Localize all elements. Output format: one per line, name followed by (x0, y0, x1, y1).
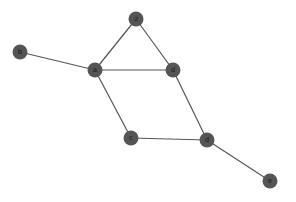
edge-layer (20, 19, 270, 181)
graph-edge (136, 19, 173, 70)
node-marker[interactable] (129, 12, 144, 27)
graph-node-d[interactable]: d (200, 133, 215, 148)
node-marker[interactable] (124, 131, 139, 146)
graph-edge (95, 19, 136, 70)
node-layer: zbadcde (13, 12, 278, 189)
graph-edge (131, 138, 207, 140)
graph-node-e[interactable]: e (263, 174, 278, 189)
node-marker[interactable] (263, 174, 278, 189)
graph-node-b[interactable]: b (13, 45, 28, 60)
graph-svg: zbadcde (0, 0, 296, 202)
graph-diagram-canvas: zbadcde (0, 0, 296, 202)
graph-edge (207, 140, 270, 181)
graph-edge (20, 52, 95, 70)
graph-edge (95, 70, 131, 138)
graph-node-z[interactable]: z (129, 12, 144, 27)
graph-node-a[interactable]: a (88, 63, 103, 78)
node-marker[interactable] (200, 133, 215, 148)
graph-node-c[interactable]: c (124, 131, 139, 146)
node-marker[interactable] (88, 63, 103, 78)
node-marker[interactable] (166, 63, 181, 78)
graph-edge (173, 70, 207, 140)
graph-node-f[interactable]: d (166, 63, 181, 78)
node-marker[interactable] (13, 45, 28, 60)
